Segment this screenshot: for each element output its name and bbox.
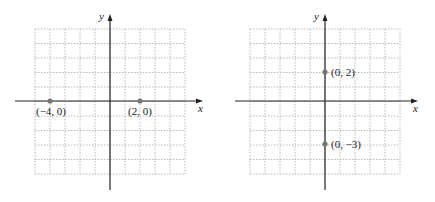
point-marker: [137, 98, 142, 103]
x-axis-label: x: [197, 102, 203, 114]
point-marker: [322, 141, 327, 146]
x-axis-label: x: [412, 102, 418, 114]
left-graph: xy(−4, 0)(2, 0): [15, 10, 203, 190]
y-axis-label: y: [313, 10, 319, 22]
point-label: (0, −3): [331, 138, 361, 151]
point-marker: [322, 69, 327, 74]
y-axis-arrow-icon: [323, 14, 328, 21]
point-label: (2, 0): [128, 105, 152, 118]
y-axis-label: y: [98, 10, 104, 22]
point-label: (0, 2): [331, 66, 355, 79]
y-axis-arrow-icon: [108, 14, 113, 21]
coordinate-graphs: xy(−4, 0)(2, 0)xy(0, 2)(0, −3): [0, 0, 435, 202]
right-graph: xy(0, 2)(0, −3): [235, 10, 418, 190]
point-label: (−4, 0): [36, 105, 66, 118]
point-marker: [47, 98, 52, 103]
